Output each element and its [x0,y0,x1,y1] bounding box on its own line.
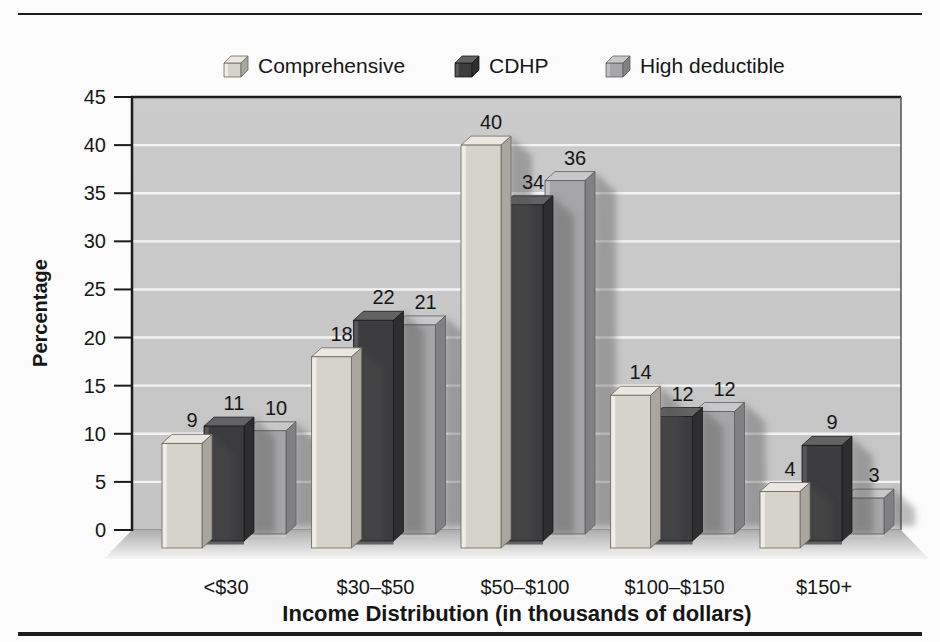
y-tick-label: 10 [84,423,106,445]
bar-value-label: 18 [330,323,352,345]
bar-left-bevel [611,396,615,547]
bar-bottom-bevel [354,541,394,545]
y-tick-label: 45 [84,86,106,108]
bar-side-face [651,386,661,548]
bar-left-bevel [761,492,765,547]
bar-bottom-bevel [844,534,884,538]
y-tick-label: 15 [84,375,106,397]
y-tick-label: 20 [84,327,106,349]
bar-bottom-bevel [802,541,842,545]
bar-value-label: 14 [629,361,651,383]
bar-bottom-bevel [246,534,286,538]
bar-group: 403436 [461,111,616,551]
bar-group: 182221 [312,286,467,551]
bar-value-label: 12 [671,383,693,405]
bar-bottom-bevel [162,548,202,552]
bar-side-face [543,196,553,541]
bar-value-label: 12 [713,378,735,400]
x-category-label: $50–$100 [481,576,570,598]
bar-front-face [312,357,352,548]
page: Comprehensive CDHP High deductible 05101… [0,0,940,642]
bar-bottom-bevel [545,534,585,538]
bar-value-label: 34 [522,171,544,193]
bar-shadow [253,417,275,533]
bar-front-face [611,395,651,548]
bar-shadow [702,408,724,533]
bar-bottom-bevel [611,548,651,552]
bar-side-face [800,483,810,548]
bar-shadow [510,136,532,540]
bar-value-label: 10 [265,397,287,419]
y-tick-label: 40 [84,134,106,156]
y-tick-label: 35 [84,182,106,204]
bar-value-label: 21 [414,291,436,313]
bar-bottom-bevel [204,541,244,545]
bar-value-label: 40 [480,111,502,133]
bar-bottom-bevel [760,548,800,552]
bar-left-bevel [163,444,167,547]
bar-shadow [660,386,682,540]
bar-value-label: 36 [564,147,586,169]
bar-front-face [760,492,800,548]
bar-bottom-bevel [461,548,501,552]
bar-front-face [162,443,202,548]
bar-shadow [893,489,915,526]
bar-side-face [286,422,296,534]
bar-value-label: 11 [224,392,245,414]
x-category-label: $150+ [796,576,852,598]
bar-bottom-bevel [503,541,543,545]
bar-left-bevel [462,146,466,547]
bar-side-face [842,436,852,541]
bar-side-face [436,316,446,534]
y-axis-title: Percentage [29,259,52,367]
bar-side-face [693,408,703,541]
bar-side-face [244,417,254,541]
bar-bottom-bevel [312,548,352,552]
bar-bottom-bevel [396,534,436,538]
y-tick-label: 5 [95,471,106,493]
x-category-label: <$30 [203,576,248,598]
bar-shadow [361,348,383,540]
bar-bottom-bevel [653,541,693,545]
x-axis-title: Income Distribution (in thousands of dol… [132,601,902,627]
y-tick-label: 0 [95,519,106,541]
bar-left-bevel [312,358,316,548]
bar-side-face [585,172,595,534]
bar-value-label: 22 [372,286,394,308]
bar-chart-canvas: 05101520253035404591110<$30182221$30–$50… [0,0,940,642]
bar-shadow [403,311,425,533]
x-category-label: $30–$50 [337,576,415,598]
bar-side-face [352,348,362,548]
bar-side-face [394,311,404,541]
bottom-rule [18,632,922,636]
y-tick-label: 30 [84,230,106,252]
bar-side-face [735,403,745,534]
y-tick-label: 25 [84,278,106,300]
bar-value-label: 9 [186,409,197,431]
bar-value-label: 3 [868,464,879,486]
bar-shadow [552,196,574,533]
bar-side-face [501,136,511,548]
bar-value-label: 4 [784,458,795,480]
bar-side-face [202,434,212,548]
x-category-label: $100–$150 [624,576,724,598]
bar-bottom-bevel [695,534,735,538]
bar-value-label: 9 [826,411,837,433]
bar-front-face [461,145,501,548]
